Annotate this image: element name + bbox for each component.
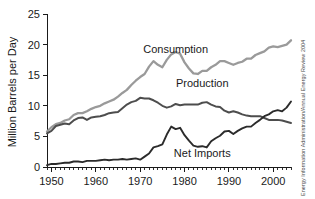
x-tick-label: 1980 [172, 175, 196, 187]
x-tick-label: 1960 [84, 175, 108, 187]
series-line-net-imports [47, 102, 291, 166]
y-tick-label: 5 [34, 130, 40, 142]
x-tick-label: 2000 [261, 175, 285, 187]
line-chart: 0510152025 195019601970198019902000 Cons… [0, 0, 315, 199]
y-tick-label: 25 [28, 8, 40, 20]
y-tick-label: 10 [28, 100, 40, 112]
x-tick-label: 1950 [39, 175, 63, 187]
series-label-production: Production [176, 77, 229, 89]
data-series-lines [47, 40, 291, 165]
series-label-net-imports: Net Imports [174, 147, 231, 159]
x-tick-label: 1970 [128, 175, 152, 187]
series-line-production [47, 98, 291, 134]
x-axis-tick-labels: 195019601970198019902000 [39, 175, 285, 187]
axis-lines [43, 14, 291, 172]
y-tick-label: 0 [34, 161, 40, 173]
y-axis-title: Million Barrels per Day [6, 36, 18, 147]
chart-figure: 0510152025 195019601970198019902000 Cons… [0, 0, 315, 199]
y-tick-label: 20 [28, 39, 40, 51]
source-attribution: Energy Information Administration/Annual… [300, 40, 306, 196]
x-tick-label: 1990 [217, 175, 241, 187]
y-axis-tick-labels: 0510152025 [28, 8, 40, 173]
y-tick-label: 15 [28, 69, 40, 81]
series-label-consumption: Consumption [143, 43, 208, 55]
